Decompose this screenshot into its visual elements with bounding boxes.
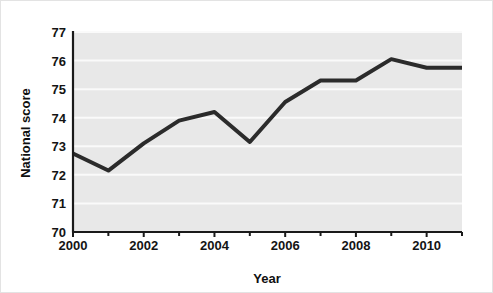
line-chart: 7071727374757677 20002002200420062008201… [0,0,493,293]
y-axis-tick-labels: 7071727374757677 [52,25,67,240]
x-tick-label: 2010 [412,238,441,253]
y-tick-label: 74 [52,111,67,126]
x-tick-label: 2000 [59,238,88,253]
y-axis-title: National score [18,88,33,178]
x-tick-label: 2002 [129,238,158,253]
x-axis-title: Year [253,271,280,286]
x-tick-label: 2004 [200,238,230,253]
chart-figure: 7071727374757677 20002002200420062008201… [0,0,493,293]
x-tick-label: 2008 [341,238,370,253]
x-tick-label: 2006 [271,238,300,253]
y-tick-label: 73 [52,139,66,154]
y-tick-label: 77 [52,25,66,40]
y-tick-label: 76 [52,54,66,69]
y-tick-label: 72 [52,168,66,183]
x-axis-tick-labels: 200020022004200620082010 [59,238,442,253]
y-tick-label: 75 [52,82,66,97]
y-tick-label: 71 [52,196,66,211]
